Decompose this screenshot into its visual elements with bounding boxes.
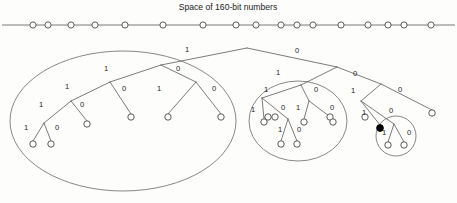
tree-edge	[301, 85, 309, 101]
tree-edge	[304, 101, 309, 119]
axis-node-marker	[30, 22, 36, 28]
axis-node-marker	[122, 22, 128, 28]
diagram-title: Space of 160-bit numbers	[179, 2, 277, 12]
tree-edge	[33, 123, 44, 141]
bit-label-1-6: 1	[157, 84, 161, 93]
binary-tree-keyspace-diagram: Space of 160-bit numbers 101010101010101…	[0, 0, 457, 203]
tree-edge	[262, 98, 264, 119]
axis-node-marker	[253, 22, 259, 28]
tree-node-n-0111-leaf	[272, 114, 278, 120]
tree-node-n-11110-leaf	[48, 141, 54, 147]
axis-node-marker	[338, 22, 344, 28]
tree-node-n-mid-ll-leaf	[261, 119, 267, 125]
bit-label-1-26: 1	[382, 128, 386, 137]
axis-node-marker	[428, 22, 434, 28]
tree-edge	[44, 123, 51, 141]
tree-node-n-11111-leaf	[30, 141, 36, 147]
tree-node-n-target-right	[401, 142, 407, 148]
bit-label-0-1: 0	[295, 46, 299, 55]
tree-node-n-target-left	[385, 142, 391, 148]
bit-label-0-13: 0	[353, 69, 357, 78]
axis-node-marker	[68, 22, 74, 28]
tree-edge	[44, 101, 71, 123]
tree-edge	[196, 82, 221, 114]
bit-label-1-20: 1	[278, 125, 282, 134]
axis-node-marker	[200, 22, 206, 28]
bit-label-1-18: 1	[296, 103, 300, 112]
axis-node-marker	[310, 22, 316, 28]
bit-label-0-27: 0	[407, 128, 411, 137]
bit-label-0-5: 0	[122, 84, 126, 93]
bit-label-1-22: 1	[351, 86, 355, 95]
bit-label-0-21: 0	[297, 125, 301, 134]
bit-label-1-10: 1	[24, 123, 28, 132]
axis-node-marker	[294, 22, 300, 28]
tree-node-n-mid-lr-l	[278, 141, 284, 147]
tree-edge	[394, 124, 404, 142]
tree-edge	[110, 65, 161, 82]
tree-edge	[388, 124, 394, 142]
bit-label-1-24: 1	[362, 108, 366, 117]
bit-label-0-19: 0	[330, 103, 334, 112]
axis-node-marker	[160, 22, 166, 28]
axis-node-marker	[233, 22, 239, 28]
bit-label-0-7: 0	[212, 84, 216, 93]
group-left-large	[10, 51, 236, 191]
bit-label-0-23: 0	[398, 85, 402, 94]
number-space-axis	[2, 22, 455, 28]
bit-label-0-25: 0	[389, 106, 393, 115]
axis-node-marker	[92, 22, 98, 28]
tree-edge	[168, 82, 196, 114]
tree-node-n-mid-rl-leaf	[301, 119, 307, 125]
tree-node-n-100-leaf	[218, 114, 224, 120]
tree-edge	[161, 48, 247, 65]
bit-label-0-9: 0	[80, 100, 84, 109]
tree-edge	[247, 48, 337, 67]
bit-label-0-11: 0	[55, 123, 59, 132]
bit-label-1-0: 1	[185, 45, 189, 54]
bit-label-0-3: 0	[176, 64, 180, 73]
axis-node-marker	[401, 22, 407, 28]
tree-edge	[288, 119, 297, 141]
tree-edge	[337, 67, 381, 84]
tree-edges	[33, 48, 432, 142]
tree-edge	[301, 67, 337, 85]
bit-label-0-15: 0	[314, 85, 318, 94]
bit-label-1-2: 1	[104, 64, 108, 73]
bit-label-1-8: 1	[39, 100, 43, 109]
diagram-canvas: Space of 160-bit numbers 101010101010101…	[0, 0, 457, 203]
bit-label-0-17: 0	[281, 103, 285, 112]
tree-node-n-1110-leaf	[84, 121, 90, 127]
axis-node-marker	[385, 22, 391, 28]
bit-label-1-14: 1	[264, 85, 268, 94]
axis-node-marker	[45, 22, 51, 28]
tree-node-n-110-leaf	[128, 114, 134, 120]
tree-nodes	[30, 110, 435, 148]
tree-node-n-000-leaf	[429, 110, 435, 116]
bit-label-1-12: 1	[276, 68, 280, 77]
tree-node-n-mid-rr-leaf	[330, 119, 336, 125]
axis-node-marker	[278, 22, 284, 28]
tree-node-n-mid-lr-r	[294, 141, 300, 147]
tree-edge	[361, 84, 381, 101]
tree-edge	[71, 82, 110, 101]
tree-edge	[110, 82, 131, 114]
bit-label-1-16: 1	[251, 105, 255, 114]
tree-bit-labels: 1010101010101010101010101010	[24, 45, 411, 137]
tree-node-n-101-leaf	[165, 114, 171, 120]
axis-node-marker	[365, 22, 371, 28]
bit-label-1-4: 1	[65, 82, 69, 91]
